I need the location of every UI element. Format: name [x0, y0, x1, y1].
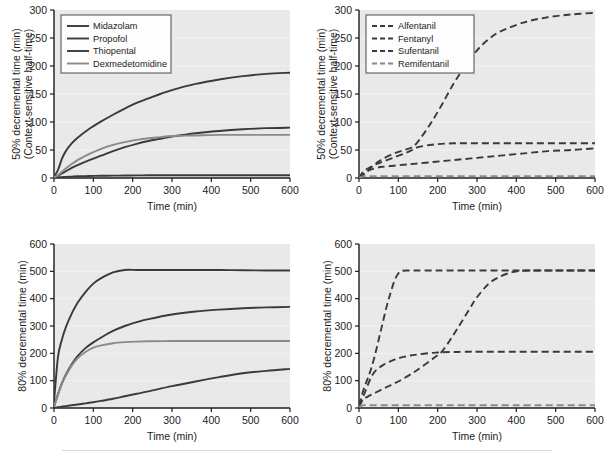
y-tick-label: 400	[334, 292, 352, 304]
legend-label-remifentanil: Remifentanil	[398, 59, 449, 69]
y-axis-title: 50% decremental time (min)(Context-sensi…	[10, 28, 34, 159]
x-tick-label: 300	[468, 414, 486, 426]
legend-label-fentanyl: Fentanyl	[398, 34, 433, 44]
y-tick-label: 600	[334, 238, 352, 250]
y-tick-label: 500	[29, 265, 47, 277]
y-axis-title-line1: 50% decremental time (min)	[315, 28, 327, 159]
x-tick-label: 300	[163, 414, 181, 426]
x-tick-label: 400	[203, 184, 221, 196]
figure-container: 0501001502002503000100200300400500600Tim…	[0, 0, 610, 459]
y-axis-title-line1: 80% decremental time (min)	[16, 260, 28, 391]
y-axis-title-line2: (Context-sensitive half-time)	[327, 29, 339, 160]
x-tick-label: 0	[356, 184, 362, 196]
chart-panel-bottom-left: 01002003004005006000100200300400500600Ti…	[0, 230, 305, 459]
y-tick-label: 300	[29, 4, 47, 16]
chart-panel-top-left: 0501001502002503000100200300400500600Tim…	[0, 0, 305, 230]
y-tick-label: 300	[334, 320, 352, 332]
y-tick-label: 0	[41, 172, 47, 184]
legend-label-dexmedetomidine: Dexmedetomidine	[93, 59, 167, 69]
y-tick-label: 600	[29, 238, 47, 250]
y-tick-label: 200	[29, 347, 47, 359]
y-tick-label: 0	[346, 172, 352, 184]
x-tick-label: 400	[508, 414, 526, 426]
y-tick-label: 300	[334, 4, 352, 16]
legend-label-sufentanil: Sufentanil	[398, 46, 439, 56]
legend-label-alfentanil: Alfentanil	[398, 21, 436, 31]
x-tick-label: 200	[124, 184, 142, 196]
x-tick-label: 600	[586, 414, 604, 426]
x-tick-label: 100	[85, 184, 103, 196]
x-axis-title: Time (min)	[452, 200, 502, 212]
x-tick-label: 600	[586, 184, 604, 196]
y-axis-title-line1: 50% decremental time (min)	[10, 28, 22, 159]
y-tick-label: 200	[334, 347, 352, 359]
y-tick-label: 50	[340, 144, 352, 156]
x-tick-label: 500	[242, 184, 260, 196]
y-axis-title: 80% decremental time (min)	[16, 260, 28, 391]
x-tick-label: 100	[85, 414, 103, 426]
x-tick-label: 100	[390, 414, 408, 426]
x-tick-label: 200	[429, 414, 447, 426]
y-tick-label: 100	[334, 374, 352, 386]
x-axis-title: Time (min)	[147, 200, 197, 212]
y-axis-title: 50% decremental time (min)(Context-sensi…	[315, 28, 339, 159]
y-axis-title-line1: 80% decremental time (min)	[321, 260, 333, 391]
y-tick-label: 500	[334, 265, 352, 277]
x-tick-label: 500	[242, 414, 260, 426]
legend-label-propofol: Propofol	[93, 34, 127, 44]
y-tick-label: 400	[29, 292, 47, 304]
y-tick-label: 50	[35, 144, 47, 156]
x-tick-label: 300	[163, 184, 181, 196]
y-axis-title: 80% decremental time (min)	[321, 260, 333, 391]
x-axis-title: Time (min)	[147, 430, 197, 442]
legend-label-midazolam: Midazolam	[93, 21, 138, 31]
x-tick-label: 500	[547, 414, 565, 426]
x-tick-label: 500	[547, 184, 565, 196]
x-tick-label: 0	[356, 414, 362, 426]
x-tick-label: 0	[51, 184, 57, 196]
y-tick-label: 0	[41, 402, 47, 414]
x-tick-label: 200	[429, 184, 447, 196]
x-tick-label: 100	[390, 184, 408, 196]
bottom-divider	[62, 450, 552, 451]
y-tick-label: 100	[29, 374, 47, 386]
x-tick-label: 400	[203, 414, 221, 426]
x-axis-title: Time (min)	[452, 430, 502, 442]
y-tick-label: 0	[346, 402, 352, 414]
y-tick-label: 300	[29, 320, 47, 332]
x-tick-label: 600	[281, 414, 299, 426]
x-tick-label: 200	[124, 414, 142, 426]
y-axis-title-line2: (Context-sensitive half-time)	[22, 29, 34, 160]
x-tick-label: 600	[281, 184, 299, 196]
chart-panel-top-right: 0501001502002503000100200300400500600Tim…	[305, 0, 610, 230]
x-tick-label: 300	[468, 184, 486, 196]
x-tick-label: 400	[508, 184, 526, 196]
chart-panel-bottom-right: 01002003004005006000100200300400500600Ti…	[305, 230, 610, 459]
legend-label-thiopental: Thiopental	[93, 46, 136, 56]
x-tick-label: 0	[51, 414, 57, 426]
